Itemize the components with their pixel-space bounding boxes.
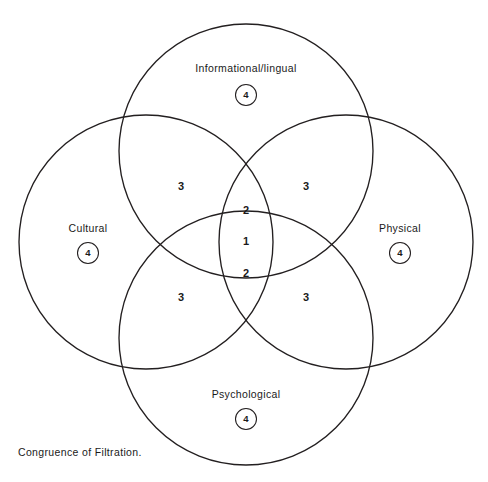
region-value-upper-left-pair: 3 bbox=[178, 181, 184, 192]
region-value-lower-right-pair: 3 bbox=[303, 292, 309, 303]
region-value-lower-left-pair: 3 bbox=[178, 292, 184, 303]
figure-caption: Congruence of Filtration. bbox=[18, 446, 142, 458]
set-label-cultural: Cultural bbox=[69, 223, 108, 234]
set-label-physical: Physical bbox=[379, 223, 421, 234]
set-count-psychological: 4 bbox=[243, 414, 248, 424]
venn-figure: Informational/lingual 4 Cultural 4 Physi… bbox=[0, 0, 488, 482]
region-value-center-all: 1 bbox=[243, 236, 249, 247]
circle-cultural bbox=[19, 115, 273, 369]
circle-physical bbox=[219, 115, 473, 369]
region-value-lower-center-triple: 2 bbox=[243, 268, 249, 279]
count-rings bbox=[78, 85, 411, 430]
region-value-upper-center-triple: 2 bbox=[243, 205, 249, 216]
set-count-physical: 4 bbox=[397, 248, 402, 258]
set-count-cultural: 4 bbox=[85, 248, 90, 258]
region-value-upper-right-pair: 3 bbox=[303, 181, 309, 192]
circle-psychological bbox=[119, 211, 373, 465]
set-count-informational: 4 bbox=[243, 90, 248, 100]
set-label-informational: Informational/lingual bbox=[195, 63, 296, 74]
set-label-psychological: Psychological bbox=[212, 389, 281, 400]
